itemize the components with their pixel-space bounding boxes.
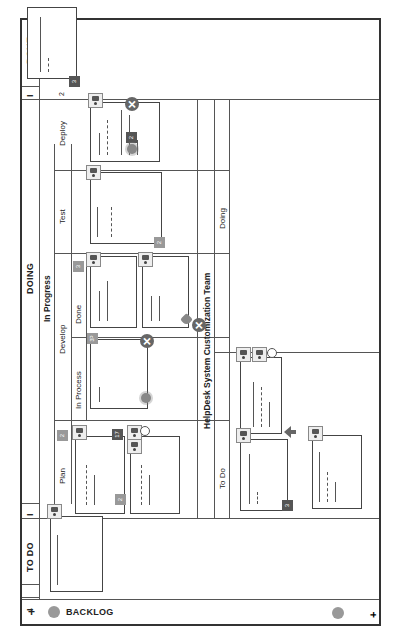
todo-collapse-divider-left (22, 597, 39, 598)
develop-done-wip-badge: 3 (73, 261, 84, 272)
close-icon[interactable]: ✕ (192, 318, 206, 332)
done-collapse-divider (22, 86, 39, 87)
swimlane-todo-title: To Do (218, 468, 227, 489)
develop-done-card-1-avatar[interactable] (86, 252, 101, 267)
swimlane-title: HelpDesk System Customization Team (202, 273, 212, 429)
swim-todo-card-2-badge: 3 (282, 500, 293, 511)
person-circle-icon (48, 606, 60, 618)
in-process-card-badge: 3P (87, 333, 98, 344)
swimlane-subheader-divider (229, 100, 230, 519)
develop-column-title: Develop (58, 325, 67, 354)
done-card-badge: 3 (69, 76, 80, 87)
deploy-wip: 2 (58, 92, 65, 96)
plan-card-1-badge: 17 (112, 429, 123, 440)
backlog-label[interactable]: BACKLOG (66, 607, 114, 617)
plan-card-1-avatar[interactable] (72, 425, 87, 440)
doing-left-divider (22, 503, 39, 504)
deploy-column-title: Deploy (58, 121, 67, 146)
swimlane-doing-title: Doing (218, 208, 227, 229)
develop-done-card-2-avatar[interactable] (138, 252, 153, 267)
in-process-card[interactable] (90, 339, 148, 409)
plan-column-title: Plan (58, 468, 67, 484)
deploy-card-avatar[interactable] (88, 93, 103, 108)
close-icon[interactable]: ✕ (125, 97, 139, 111)
in-progress-group-title: In Progress (42, 275, 52, 322)
done-card[interactable] (27, 7, 77, 79)
swim-todo-card-1[interactable] (240, 357, 282, 434)
backlog-row[interactable]: + BACKLOG (22, 602, 378, 624)
todo-collapse-right[interactable]: I (25, 513, 35, 516)
deploy-card-badge: 2 (126, 132, 137, 143)
done-collapse[interactable]: I (25, 94, 35, 97)
plan-wip-badge: 2 (57, 430, 68, 441)
in-process-column-title: In Process (74, 371, 83, 409)
develop-done-column-title: Done (74, 305, 83, 324)
clock-icon (140, 426, 150, 436)
swim-todo-card-2[interactable] (240, 439, 288, 511)
clock-icon (267, 348, 277, 358)
doing-column-title: DOING (25, 263, 35, 294)
deploy-card[interactable] (90, 102, 160, 162)
close-icon[interactable]: ✕ (140, 334, 154, 348)
test-card[interactable] (90, 172, 162, 244)
plan-card-2-avatar-2[interactable] (127, 439, 142, 454)
header-divider (39, 20, 40, 600)
swim-todo-card-2-avatar[interactable] (236, 428, 251, 443)
board-stage: + I TO DO I DOING In Progress Plan 2 (0, 0, 395, 639)
in-progress-divider (54, 144, 55, 504)
test-right-border (54, 170, 229, 171)
todo-card-avatar[interactable] (47, 504, 62, 519)
test-card-avatar[interactable] (86, 165, 101, 180)
todo-column-title: TO DO (25, 542, 35, 572)
todo-collapse-divider (22, 584, 39, 585)
subcolumn-divider (71, 144, 72, 504)
todo-card[interactable] (50, 516, 103, 592)
swim-todo-card-1-avatar-1[interactable] (236, 347, 251, 362)
doing-right-border (22, 99, 379, 100)
swim-todo-card-3-avatar[interactable] (308, 426, 323, 441)
plan-card-1-doc-badge: 2 (115, 494, 126, 505)
swimlane-title-divider (214, 100, 215, 519)
add-backlog-button[interactable]: + (28, 605, 35, 619)
kanban-board: + I TO DO I DOING In Progress Plan 2 (20, 18, 381, 626)
bug-icon (127, 144, 137, 154)
bug-icon (141, 393, 151, 403)
test-column-title: Test (58, 209, 67, 224)
swim-todo-card-3[interactable] (312, 435, 362, 509)
swim-todo-card-1-avatar-2[interactable] (252, 347, 267, 362)
arrow-up-icon (284, 426, 291, 438)
test-card-badge: 2 (154, 237, 165, 248)
swimlane-top-border (197, 100, 198, 519)
